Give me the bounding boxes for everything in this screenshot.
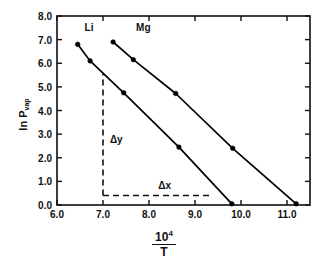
y-tick-label: 2.0 (26, 152, 52, 163)
x-axis-label-fraction: 104 T (152, 230, 176, 258)
x-tick-label: 7.0 (88, 209, 118, 220)
series-label-Li: Li (85, 22, 94, 33)
figure: ln Pvap 104 T 6.07.08.09.010.011.00.01.0… (0, 0, 328, 269)
y-tick-label: 5.0 (26, 81, 52, 92)
data-point-Mg (294, 202, 299, 207)
y-tick-label: 1.0 (26, 176, 52, 187)
x-tick-label: 11.0 (272, 209, 302, 220)
x-axis-numerator-base: 10 (155, 230, 168, 244)
x-tick-label: 8.0 (134, 209, 164, 220)
y-tick-label: 8.0 (26, 11, 52, 22)
x-axis-label-numerator: 104 (152, 230, 176, 245)
x-tick-label: 6.0 (42, 209, 72, 220)
data-point-Li (230, 202, 235, 207)
data-point-Mg (111, 40, 116, 45)
x-tick-label: 9.0 (180, 209, 210, 220)
y-tick-label: 0.0 (26, 200, 52, 211)
data-point-Li (75, 42, 80, 47)
x-axis-numerator-exponent: 4 (168, 229, 172, 238)
data-point-Mg (230, 146, 235, 151)
y-tick-label: 7.0 (26, 34, 52, 45)
delta-y-label: Δy (110, 134, 123, 145)
y-tick-label: 3.0 (26, 129, 52, 140)
plot-frame (57, 16, 310, 205)
data-point-Mg (173, 91, 178, 96)
x-axis-label-denominator: T (152, 245, 176, 259)
data-point-Li (177, 145, 182, 150)
data-point-Li (88, 59, 93, 64)
data-point-Li (121, 90, 126, 95)
delta-x-label: Δx (158, 180, 171, 191)
data-point-Mg (131, 57, 136, 62)
series-label-Mg: Mg (136, 22, 150, 33)
x-tick-label: 10.0 (226, 209, 256, 220)
y-tick-label: 6.0 (26, 58, 52, 69)
y-tick-label: 4.0 (26, 105, 52, 116)
series-line-Mg (113, 42, 296, 204)
x-axis-label: 104 T (124, 230, 204, 259)
